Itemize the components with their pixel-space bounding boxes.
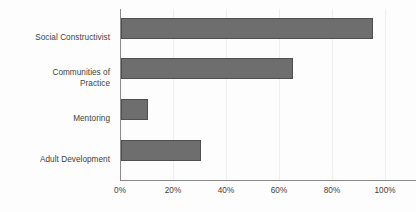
bar-communities-of-practice: [121, 58, 293, 79]
category-label-mentoring: Mentoring: [0, 114, 110, 125]
x-tick-label-40: 40%: [218, 185, 235, 196]
category-label-communities-of-practice: Communities of Practice: [0, 68, 110, 89]
x-axis-line: [120, 180, 416, 181]
category-label-line-1: Communities of: [0, 68, 110, 79]
x-tick-label-100: 100%: [374, 185, 395, 196]
bar-adult-development: [121, 140, 201, 161]
category-label-social-constructivist: Social Constructivist: [0, 33, 110, 44]
x-axis-tick-labels: 0% 20% 40% 60% 80% 100%: [120, 185, 416, 199]
x-tick-label-60: 60%: [271, 185, 288, 196]
plot-area: [120, 9, 416, 180]
x-tick-label-80: 80%: [324, 185, 341, 196]
category-label-line-1: Social Constructivist: [35, 33, 110, 42]
category-label-line-2: Practice: [0, 79, 110, 90]
x-tick-label-0: 0%: [114, 185, 126, 196]
category-axis-labels: Social Constructivist Communities of Pra…: [0, 10, 116, 180]
bar-series: [121, 9, 416, 180]
x-tick-label-20: 20%: [165, 185, 182, 196]
category-label-line-1: Adult Development: [40, 155, 110, 164]
bar-mentoring: [121, 99, 148, 120]
bar-chart: Social Constructivist Communities of Pra…: [0, 0, 416, 212]
category-label-adult-development: Adult Development: [0, 155, 110, 166]
category-label-line-1: Mentoring: [73, 114, 110, 123]
bar-social-constructivist: [121, 18, 373, 39]
